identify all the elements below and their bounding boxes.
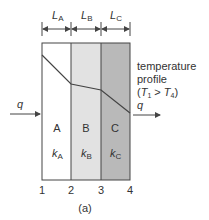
layer-a-name: A	[53, 122, 61, 134]
layer-b-name: B	[82, 122, 89, 134]
interface-label-4: 4	[127, 184, 133, 196]
interface-label-3: 3	[98, 184, 104, 196]
composite-wall-diagram: LA LB LC q q temperature profile (T1 > T…	[0, 0, 209, 220]
temperature-profile-label-line1: temperature	[137, 60, 196, 72]
temperature-profile-label-line2: profile	[137, 73, 167, 85]
temperature-condition: (T1 > T4)	[137, 86, 178, 99]
label-lb: LB	[81, 9, 92, 23]
interface-label-1: 1	[39, 184, 45, 196]
layer-a-region	[42, 43, 71, 180]
interface-label-2: 2	[68, 184, 74, 196]
heat-flow-out-label: q	[137, 99, 144, 111]
label-la: LA	[52, 9, 64, 23]
figure-caption: (a)	[78, 202, 91, 214]
layer-c-name: C	[111, 122, 119, 134]
heat-flow-in-label: q	[17, 98, 24, 110]
label-lc: LC	[110, 9, 122, 23]
